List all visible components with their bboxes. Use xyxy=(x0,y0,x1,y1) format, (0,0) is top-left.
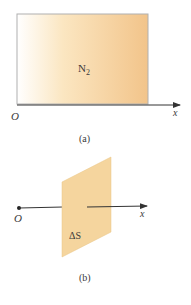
x-axis-b-left xyxy=(19,207,63,208)
gas-container xyxy=(17,14,148,104)
axis-label-b: x xyxy=(139,208,145,219)
origin-label-b: O xyxy=(14,212,22,224)
figure-b: O x ΔS (b) xyxy=(14,157,147,284)
axis-label-a: x xyxy=(172,107,178,118)
figure-a: N2 O x (a) xyxy=(11,14,180,145)
origin-label-a: O xyxy=(11,110,19,122)
figure-canvas: N2 O x (a) O x ΔS (b) xyxy=(0,0,191,305)
surface-label: ΔS xyxy=(69,230,81,241)
caption-a: (a) xyxy=(79,133,90,145)
caption-b: (b) xyxy=(79,272,91,284)
